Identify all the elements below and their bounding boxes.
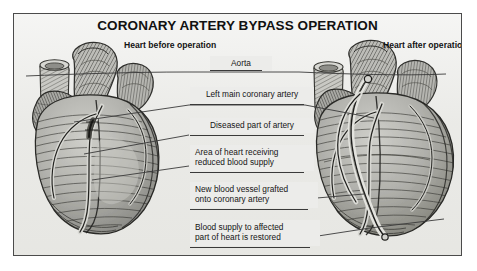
label-aorta-text: Aorta (231, 58, 251, 68)
label-reduced-line2: reduced blood supply (195, 157, 309, 167)
label-new-blood-vessel-graft: New blood vessel grafted onto coronary a… (190, 182, 318, 208)
illustration-panel: CORONARY ARTERY BYPASS OPERATION Heart b… (13, 13, 462, 256)
label-restored-line1: Blood supply to affected (195, 222, 315, 232)
rule-diseased (190, 135, 304, 136)
rule-reduced-supply (190, 172, 304, 173)
label-left-main-coronary-artery: Left main coronary artery (190, 87, 314, 102)
rule-left-main (190, 104, 304, 105)
figure-title: CORONARY ARTERY BYPASS OPERATION (14, 18, 461, 33)
label-diseased-part-of-artery: Diseased part of artery (190, 118, 314, 133)
label-diseased-text: Diseased part of artery (210, 120, 294, 130)
label-aorta: Aorta (210, 56, 272, 71)
rule-restored (190, 247, 310, 248)
label-reduced-blood-supply: Area of heart receiving reduced blood su… (190, 145, 314, 171)
caption-heart-before: Heart before operation (124, 40, 216, 50)
heart-after-illustration (298, 34, 462, 256)
label-graft-line2: onto coronary artery (195, 194, 313, 204)
label-reduced-line1: Area of heart receiving (195, 147, 309, 157)
label-restored-line2: part of heart is restored (195, 232, 315, 242)
label-blood-supply-restored: Blood supply to affected part of heart i… (190, 220, 320, 246)
label-left-main-text: Left main coronary artery (206, 89, 298, 99)
heart-before-illustration (13, 34, 178, 256)
figure-root: CORONARY ARTERY BYPASS OPERATION Heart b… (0, 0, 477, 271)
label-graft-line1: New blood vessel grafted (195, 184, 313, 194)
rule-graft (190, 209, 308, 210)
caption-heart-after: Heart after operation (383, 40, 462, 50)
